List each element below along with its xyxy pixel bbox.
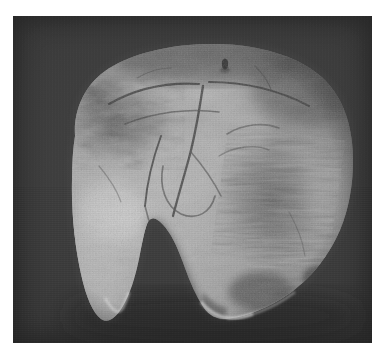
specimen-photograph — [13, 16, 372, 343]
print-grain-overlay — [13, 16, 372, 343]
photographic-plate — [0, 0, 385, 357]
